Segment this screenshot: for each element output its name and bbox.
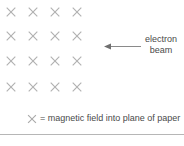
legend-caption: = magnetic field into plane of paper	[27, 113, 180, 124]
x-cross-icon	[28, 31, 39, 42]
legend-caption-text: = magnetic field into plane of paper	[40, 113, 180, 124]
x-cross-icon	[28, 56, 39, 67]
x-cross-icon	[72, 56, 83, 67]
magnetic-field-grid	[0, 0, 95, 100]
x-cross-icon	[72, 7, 83, 18]
electron-beam-label-line1: electron	[138, 34, 184, 45]
x-cross-icon	[72, 82, 83, 93]
x-cross-icon	[50, 31, 61, 42]
x-cross-icon	[72, 31, 83, 42]
electron-beam-label-line2: beam	[138, 45, 184, 56]
x-cross-icon	[50, 7, 61, 18]
electron-beam-label: electron beam	[138, 34, 184, 55]
electron-beam-arrow	[104, 41, 142, 52]
x-cross-icon	[27, 114, 37, 124]
x-cross-icon	[28, 82, 39, 93]
x-cross-icon	[50, 82, 61, 93]
x-cross-icon	[6, 31, 17, 42]
x-cross-icon	[6, 56, 17, 67]
bottom-divider	[0, 134, 184, 135]
x-cross-icon	[6, 82, 17, 93]
x-cross-icon	[28, 7, 39, 18]
physics-diagram-figure: electron beam = magnetic field into plan…	[0, 0, 184, 146]
x-cross-icon	[6, 7, 17, 18]
x-cross-icon	[50, 56, 61, 67]
